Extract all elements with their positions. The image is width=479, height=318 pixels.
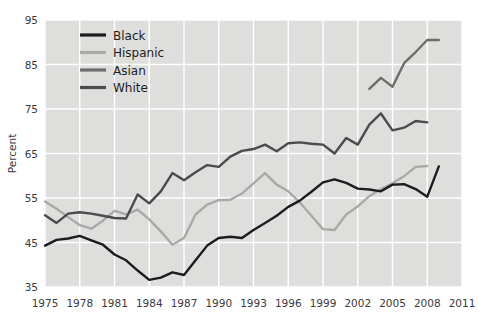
line-chart: 35455565758595 1975197819811984198719901… (0, 0, 479, 318)
y-tick-label: 35 (25, 281, 38, 293)
legend-label-white[interactable]: White (113, 81, 148, 95)
y-axis-title: Percent (6, 134, 18, 174)
y-axis-label-text: Percent (6, 134, 18, 174)
x-tick-label: 1978 (66, 297, 93, 309)
x-tick-label: 2002 (344, 297, 371, 309)
legend-label-asian[interactable]: Asian (113, 64, 146, 78)
x-tick-label: 1993 (240, 297, 267, 309)
y-tick-label: 75 (25, 103, 38, 115)
x-tick-label: 1999 (310, 297, 337, 309)
x-tick-label: 1975 (32, 297, 59, 309)
chart-container: 35455565758595 1975197819811984198719901… (0, 0, 479, 318)
x-tick-label: 1984 (136, 297, 163, 309)
legend-label-hispanic[interactable]: Hispanic (113, 46, 164, 60)
x-tick-label: 1987 (171, 297, 198, 309)
x-tick-label: 2008 (414, 297, 441, 309)
x-tick-label: 2005 (379, 297, 406, 309)
x-tick-label: 1996 (275, 297, 302, 309)
y-tick-label: 65 (25, 148, 38, 160)
x-tick-label: 2011 (449, 297, 476, 309)
y-axis-tick-labels: 35455565758595 (25, 14, 38, 293)
x-tick-label: 1990 (205, 297, 232, 309)
x-axis-tick-labels: 1975197819811984198719901993199619992002… (32, 297, 476, 309)
y-tick-label: 55 (25, 192, 38, 204)
y-tick-label: 45 (25, 237, 38, 249)
x-tick-label: 1981 (101, 297, 128, 309)
legend-label-black[interactable]: Black (113, 29, 146, 43)
y-tick-label: 85 (25, 59, 38, 71)
y-tick-label: 95 (25, 14, 38, 26)
